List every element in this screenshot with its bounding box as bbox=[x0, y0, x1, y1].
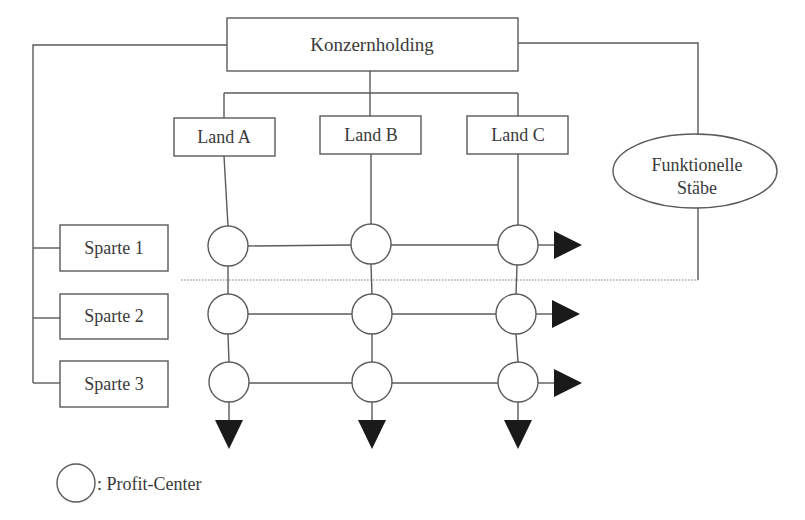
land-c-label: Land C bbox=[491, 125, 545, 145]
profit-center-a1 bbox=[208, 226, 248, 266]
land-a-node: Land A bbox=[174, 118, 275, 156]
functional-staff-node: Funktionelle Stäbe bbox=[613, 134, 777, 208]
legend: : Profit-Center bbox=[57, 464, 201, 502]
country-nodes: Land A Land B Land C bbox=[174, 116, 568, 156]
profit-center-b3 bbox=[352, 362, 392, 402]
profit-center-a2 bbox=[208, 294, 248, 334]
profit-center-grid bbox=[208, 224, 538, 402]
land-c-vertical-2 bbox=[516, 334, 518, 362]
land-a-vertical-2 bbox=[228, 334, 229, 362]
konzernholding-label: Konzernholding bbox=[310, 34, 434, 55]
profit-center-b2 bbox=[352, 294, 392, 334]
org-diagram: Konzernholding Land A Land B Land C Funk… bbox=[0, 0, 805, 520]
profit-center-c3 bbox=[498, 362, 538, 402]
arrows bbox=[215, 231, 582, 449]
sparte-3-node: Sparte 3 bbox=[60, 361, 168, 407]
land-b-node: Land B bbox=[320, 116, 421, 154]
sparte-3-label: Sparte 3 bbox=[84, 374, 143, 394]
arrow-right-icon bbox=[554, 231, 582, 259]
land-c-node: Land C bbox=[467, 116, 568, 154]
profit-center-a3 bbox=[209, 362, 249, 402]
legend-label: : Profit-Center bbox=[97, 474, 201, 494]
land-a-label: Land A bbox=[197, 127, 251, 147]
land-a-vertical-top bbox=[224, 156, 228, 226]
sparte-1-row-ab bbox=[248, 245, 351, 246]
profit-center-c1 bbox=[498, 225, 538, 265]
functional-staff-label-line2: Stäbe bbox=[677, 178, 717, 198]
land-b-vertical-1 bbox=[371, 264, 372, 294]
functional-staff-label-line1: Funktionelle bbox=[652, 155, 743, 175]
sparte-1-node: Sparte 1 bbox=[60, 225, 168, 271]
legend-profit-center-icon bbox=[57, 464, 95, 502]
arrow-right-icon bbox=[552, 300, 580, 328]
sparte-2-node: Sparte 2 bbox=[60, 294, 168, 339]
sparte-2-label: Sparte 2 bbox=[84, 306, 143, 326]
land-c-vertical-1 bbox=[516, 265, 517, 294]
sparte-1-label: Sparte 1 bbox=[84, 238, 143, 258]
profit-center-c2 bbox=[496, 294, 536, 334]
arrow-right-icon bbox=[554, 369, 582, 397]
konzernholding-node: Konzernholding bbox=[227, 18, 518, 71]
land-b-label: Land B bbox=[344, 125, 398, 145]
arrow-down-icon bbox=[215, 420, 243, 449]
division-nodes: Sparte 1 Sparte 2 Sparte 3 bbox=[60, 225, 168, 407]
profit-center-b1 bbox=[351, 224, 391, 264]
arrow-down-icon bbox=[358, 420, 386, 449]
arrow-down-icon bbox=[504, 420, 532, 449]
diagram-canvas: Konzernholding Land A Land B Land C Funk… bbox=[0, 0, 805, 520]
